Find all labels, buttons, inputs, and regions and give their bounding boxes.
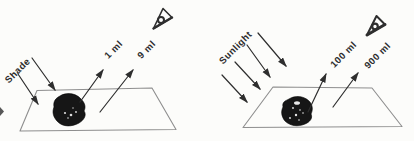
- volume-arrows: [308, 73, 358, 112]
- sunlight-panel: Sunlight 100 ml 900 ml: [217, 16, 402, 128]
- eye-icon: [367, 16, 385, 35]
- volume-arrow: [333, 73, 358, 107]
- volume-arrow: [308, 74, 326, 112]
- volume-label: 1 ml: [102, 38, 125, 61]
- light-arrow: [32, 58, 55, 90]
- volume-arrow: [80, 70, 103, 102]
- volume-arrows: [80, 70, 133, 112]
- light-arrow: [258, 33, 286, 66]
- light-arrow: [222, 75, 247, 102]
- volume-label: 900 ml: [362, 40, 393, 71]
- scan-artifact: [0, 107, 4, 116]
- ground-plane: [243, 87, 402, 128]
- diagram-figure: Shade 1 ml 9 ml: [0, 0, 414, 141]
- volume-label: 100 ml: [328, 39, 359, 70]
- volume-arrow: [100, 70, 133, 112]
- volume-label: 9 ml: [135, 38, 158, 61]
- diagram-canvas: Shade 1 ml 9 ml: [0, 0, 414, 141]
- eye-icon: [154, 9, 173, 29]
- rock: [53, 94, 85, 126]
- light-arrow: [235, 62, 260, 89]
- shade-panel: Shade 1 ml 9 ml: [2, 9, 176, 132]
- ground-plane: [20, 88, 176, 131]
- light-arrow: [18, 74, 38, 104]
- rock: [282, 97, 313, 126]
- light-source-label: Shade: [2, 55, 32, 85]
- light-arrow: [247, 45, 270, 77]
